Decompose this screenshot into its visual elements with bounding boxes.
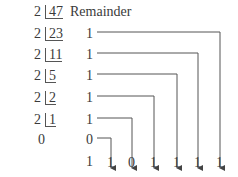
connector-arrows [0,0,238,177]
result-bit-4: 1 [194,156,201,170]
result-bit-3: 1 [173,156,180,170]
arrow-bit-4 [97,118,132,168]
arrow-bit-0 [97,32,220,168]
result-bit-5: 1 [216,156,223,170]
arrow-bit-3 [97,96,154,168]
result-bit-1: 0 [128,156,135,170]
arrow-bit-1 [97,53,198,168]
arrow-bit-2 [97,74,177,168]
result-bit-0: 1 [107,156,114,170]
result-bit-2: 1 [150,156,157,170]
